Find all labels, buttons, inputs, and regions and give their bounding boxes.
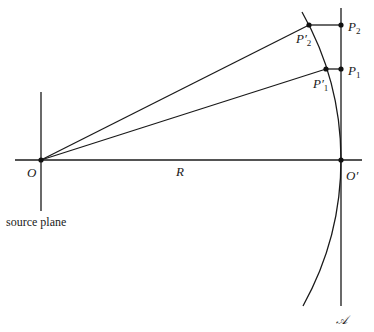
source-plane-label: source plane	[6, 215, 66, 229]
radius-label: R	[175, 164, 184, 179]
p1-prime-point	[323, 66, 328, 71]
o-prime-label: O′	[346, 168, 358, 183]
origin-label: O	[27, 165, 37, 180]
p2-label: P2	[347, 19, 360, 36]
sphere-arc	[302, 12, 341, 306]
ray-to-p1-prime	[41, 69, 326, 160]
p1-point	[338, 66, 343, 71]
projection-diagram: O O′ R source plane P2 P1 P′2 P′1 𝒜	[0, 0, 374, 332]
origin-point	[38, 157, 43, 162]
plane-a-label: 𝒜	[336, 313, 351, 327]
ray-to-p2-prime	[41, 25, 309, 160]
p2-prime-point	[306, 22, 311, 27]
p2-prime-label: P′2	[295, 31, 311, 48]
p1-label: P1	[347, 63, 360, 80]
p2-point	[338, 22, 343, 27]
o-prime-point	[338, 157, 343, 162]
p1-prime-label: P′1	[312, 76, 328, 93]
